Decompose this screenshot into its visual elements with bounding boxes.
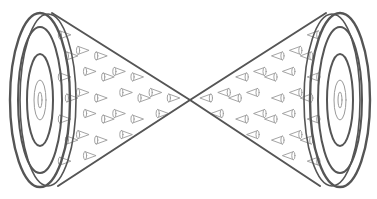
right-cone [190,13,370,187]
cone-drawing [0,0,377,199]
right-cone-ring-2 [327,54,353,146]
right-cone-ring-1 [318,27,362,173]
left-cone [10,13,190,187]
right-cone-ring-3 [334,80,346,120]
left-cone-ring-4 [38,92,42,108]
left-cone-ring-2 [27,54,53,146]
left-cone-ring-3 [34,80,46,120]
left-cone-ring-1 [18,27,62,173]
right-cone-ring-4 [338,92,342,108]
right-cone-small-cones [200,31,320,165]
twin-cones-illustration [0,0,377,199]
